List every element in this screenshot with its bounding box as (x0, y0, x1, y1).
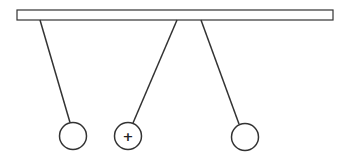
string-3 (201, 20, 239, 124)
pendulum-diagram: + (0, 0, 345, 165)
pendulum-3 (201, 20, 259, 151)
pendulum-2: + (115, 20, 178, 150)
sphere-2-charge: + (123, 129, 134, 144)
string-2 (133, 20, 177, 123)
support-rod (17, 10, 333, 20)
pendulum-1 (40, 20, 87, 150)
string-1 (40, 20, 70, 123)
sphere-3 (232, 124, 259, 151)
sphere-1 (60, 123, 87, 150)
